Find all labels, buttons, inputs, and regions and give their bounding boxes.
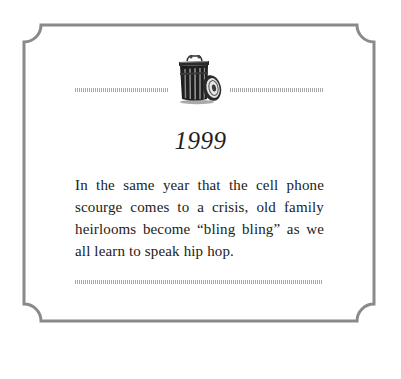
year-heading: 1999 (0, 127, 401, 155)
trash-can-icon (175, 53, 223, 105)
decorative-rule-bottom (75, 280, 323, 284)
event-description: In the same year that the cell phone sco… (75, 174, 324, 262)
decorative-rule-left (75, 88, 169, 92)
decorative-rule-right (230, 88, 323, 92)
